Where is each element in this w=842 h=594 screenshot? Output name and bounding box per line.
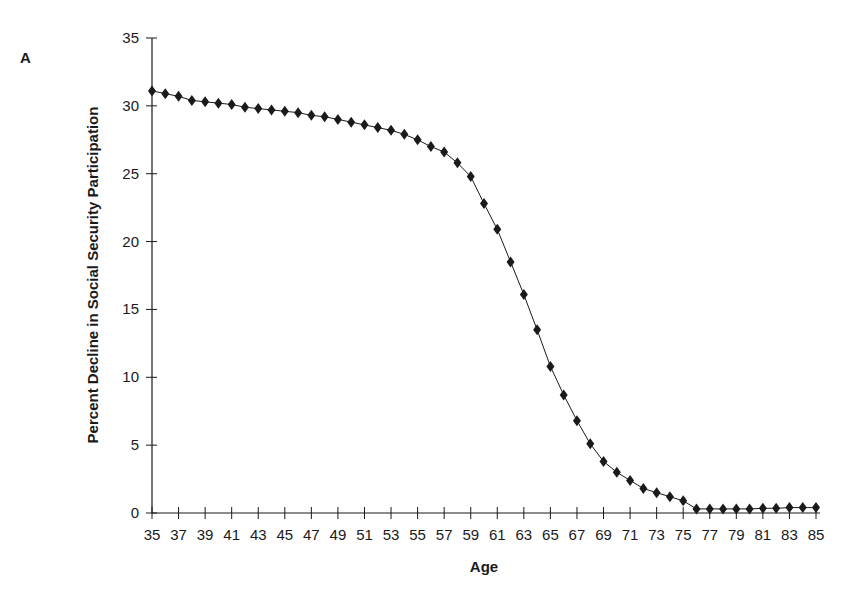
- diamond-marker: [799, 502, 807, 513]
- diamond-marker: [400, 129, 408, 140]
- x-tick-label: 39: [197, 526, 214, 543]
- diamond-marker: [161, 88, 169, 99]
- diamond-marker: [533, 324, 541, 335]
- x-tick-label: 65: [542, 526, 559, 543]
- y-tick-label: 15: [122, 300, 139, 317]
- x-tick-label: 73: [648, 526, 665, 543]
- x-tick-label: 55: [409, 526, 426, 543]
- x-tick-label: 71: [622, 526, 639, 543]
- diamond-marker: [480, 198, 488, 209]
- x-tick-label: 53: [383, 526, 400, 543]
- y-axis-title: Percent Decline in Social Security Parti…: [84, 107, 101, 444]
- diamond-marker: [679, 495, 687, 506]
- y-tick-label: 25: [122, 165, 139, 182]
- x-tick-label: 37: [170, 526, 187, 543]
- diamond-marker: [467, 171, 475, 182]
- x-tick-label: 59: [462, 526, 479, 543]
- x-tick-label: 85: [808, 526, 825, 543]
- diamond-marker: [201, 96, 209, 107]
- x-tick-label: 51: [356, 526, 373, 543]
- diamond-marker: [188, 95, 196, 106]
- x-tick-label: 69: [595, 526, 612, 543]
- diamond-marker: [148, 85, 156, 96]
- x-tick-label: 79: [728, 526, 745, 543]
- diamond-marker: [374, 122, 382, 133]
- diamond-marker: [307, 110, 315, 121]
- y-tick-label: 0: [131, 504, 139, 521]
- x-tick-label: 61: [489, 526, 506, 543]
- diamond-marker: [546, 361, 554, 372]
- diamond-marker: [214, 98, 222, 109]
- diamond-marker: [427, 141, 435, 152]
- diamond-marker: [228, 99, 236, 110]
- diamond-marker: [520, 289, 528, 300]
- diamond-marker: [493, 224, 501, 235]
- diamond-marker: [759, 503, 767, 514]
- x-tick-label: 35: [144, 526, 161, 543]
- diamond-marker: [347, 117, 355, 128]
- diamond-marker: [294, 107, 302, 118]
- diamond-marker: [772, 503, 780, 514]
- diamond-marker: [453, 157, 461, 168]
- diamond-marker: [613, 467, 621, 478]
- x-tick-label: 83: [781, 526, 798, 543]
- y-tick-label: 30: [122, 97, 139, 114]
- x-tick-label: 81: [755, 526, 772, 543]
- diamond-marker: [321, 111, 329, 122]
- x-tick-label: 43: [250, 526, 267, 543]
- diamond-marker: [626, 475, 634, 486]
- diamond-marker: [241, 102, 249, 113]
- y-tick-label: 10: [122, 368, 139, 385]
- diamond-marker: [507, 256, 515, 267]
- y-tick-label: 35: [122, 29, 139, 46]
- diamond-marker: [254, 103, 262, 114]
- diamond-marker: [387, 125, 395, 136]
- x-tick-label: 67: [569, 526, 586, 543]
- x-tick-label: 45: [276, 526, 293, 543]
- x-tick-label: 57: [436, 526, 453, 543]
- diamond-marker: [268, 104, 276, 115]
- x-axis-title: Age: [470, 558, 498, 575]
- diamond-marker: [360, 119, 368, 130]
- y-tick-label: 20: [122, 233, 139, 250]
- data-markers: [148, 85, 820, 514]
- x-tick-label: 75: [675, 526, 692, 543]
- diamond-marker: [653, 487, 661, 498]
- diamond-marker: [666, 491, 674, 502]
- diamond-marker: [560, 389, 568, 400]
- diamond-marker: [175, 91, 183, 102]
- diamond-marker: [334, 114, 342, 125]
- line-chart: 05101520253035 3537394143454749515355575…: [0, 0, 842, 594]
- y-tick-label: 5: [131, 436, 139, 453]
- diamond-marker: [414, 134, 422, 145]
- series-line: [152, 91, 816, 509]
- diamond-marker: [281, 106, 289, 117]
- x-tick-label: 63: [515, 526, 532, 543]
- diamond-marker: [785, 502, 793, 513]
- x-tick-label: 49: [330, 526, 347, 543]
- diamond-marker: [639, 483, 647, 494]
- diamond-marker: [440, 147, 448, 158]
- axes: [152, 38, 820, 513]
- x-tick-label: 47: [303, 526, 320, 543]
- x-tick-label: 77: [701, 526, 718, 543]
- diamond-marker: [812, 502, 820, 513]
- x-tick-label: 41: [223, 526, 240, 543]
